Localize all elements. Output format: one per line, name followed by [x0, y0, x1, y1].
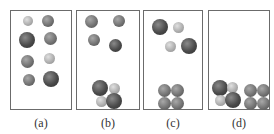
- particle-med: [244, 84, 257, 97]
- panel-label-b: (b): [88, 116, 128, 131]
- panel-label-d: (d): [219, 116, 259, 131]
- particle-med: [21, 55, 34, 68]
- particle-med: [42, 15, 54, 27]
- particle-med: [44, 32, 57, 45]
- panel-label-a: (a): [21, 116, 61, 131]
- particle-med: [257, 97, 270, 110]
- particle-med: [85, 15, 98, 28]
- panel-a: [10, 10, 72, 110]
- particle-med: [23, 74, 35, 86]
- particle-med: [171, 84, 184, 97]
- particle-dark: [19, 32, 35, 48]
- particle-light: [23, 16, 33, 26]
- particle-dark: [212, 80, 228, 96]
- particle-light: [96, 96, 107, 107]
- particle-dark: [106, 93, 122, 109]
- particle-dark: [92, 80, 108, 96]
- particle-light: [165, 41, 176, 52]
- particle-light: [44, 53, 55, 64]
- particle-med: [257, 84, 270, 97]
- particle-med: [244, 97, 257, 110]
- particle-light: [173, 22, 184, 33]
- particle-med: [158, 97, 171, 110]
- particle-dark: [109, 39, 122, 52]
- particle-med: [113, 15, 125, 27]
- particle-dark: [225, 92, 241, 108]
- panel-label-c: (c): [153, 116, 193, 131]
- particle-med: [158, 84, 171, 97]
- particle-med: [88, 34, 100, 46]
- particle-dark: [152, 19, 168, 35]
- particle-light: [227, 82, 238, 93]
- particle-dark: [181, 38, 197, 54]
- particle-light: [215, 95, 226, 106]
- particle-dark: [43, 71, 59, 87]
- particle-light: [109, 83, 120, 94]
- particle-med: [171, 97, 184, 110]
